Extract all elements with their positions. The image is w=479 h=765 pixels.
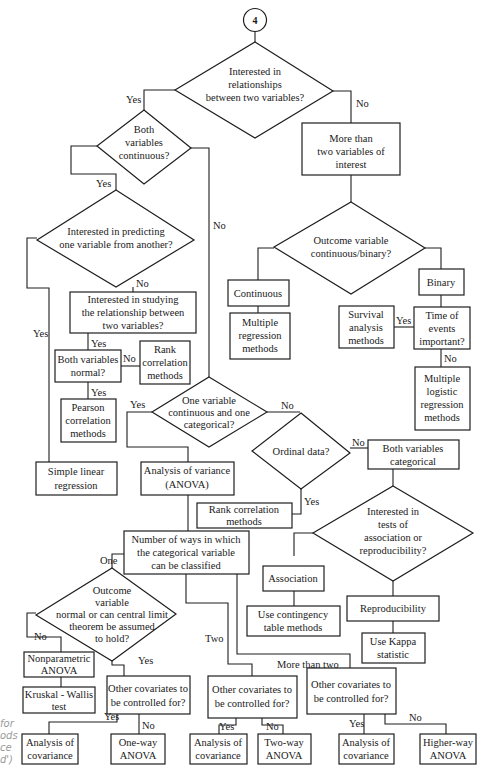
svg-text:to hold?: to hold?: [95, 633, 129, 644]
svg-text:two variables?: two variables?: [103, 320, 164, 331]
svg-text:correlation: correlation: [142, 357, 188, 368]
svg-text:Reproducibility: Reproducibility: [360, 603, 427, 614]
svg-text:correlation: correlation: [65, 415, 111, 426]
box-anova: Analysis of variance (ANOVA): [141, 462, 234, 495]
box-both-normal: Both variables normal?: [55, 350, 121, 382]
svg-text:Other covariates to: Other covariates to: [311, 679, 391, 690]
box-more-than-two: More than two variables of interest: [302, 123, 400, 175]
svg-text:Analysis of variance: Analysis of variance: [144, 465, 231, 476]
svg-text:(ANOVA): (ANOVA): [165, 479, 209, 491]
svg-text:Outcome variable: Outcome variable: [314, 235, 389, 246]
svg-text:Yes: Yes: [396, 315, 411, 326]
svg-text:Both variables: Both variables: [383, 443, 444, 454]
svg-text:Yes: Yes: [104, 711, 119, 722]
decision-outcome-normal: Outcome variable normal or can central l…: [36, 568, 176, 661]
svg-text:Yes: Yes: [304, 496, 319, 507]
box-covariates-2: Other covariates to be controlled for?: [208, 676, 297, 718]
svg-text:methods: methods: [226, 516, 262, 527]
svg-text:Yes: Yes: [349, 718, 364, 729]
svg-text:ods: ods: [0, 730, 18, 741]
svg-text:ANOVA: ANOVA: [266, 750, 303, 761]
box-binary: Binary: [419, 269, 464, 295]
decision-outcome-cont-binary: Outcome variable continuous/binary?: [274, 202, 425, 294]
svg-text:Nonparametric: Nonparametric: [28, 653, 91, 664]
svg-text:continuous/binary?: continuous/binary?: [311, 248, 392, 259]
svg-text:continuous?: continuous?: [119, 150, 170, 161]
svg-text:regression: regression: [420, 399, 464, 410]
svg-text:test: test: [52, 701, 67, 712]
box-rank-correlation-2: Rank correlation methods: [197, 503, 292, 528]
svg-text:Use contingency: Use contingency: [258, 609, 329, 620]
svg-text:methods: methods: [70, 428, 106, 439]
svg-text:Survival: Survival: [348, 309, 384, 320]
svg-text:Both: Both: [134, 124, 155, 135]
svg-text:Yes: Yes: [33, 328, 48, 339]
svg-text:Association: Association: [268, 573, 318, 584]
box-reproducibility: Reproducibility: [347, 596, 439, 621]
svg-text:variable: variable: [95, 597, 129, 608]
decision-ordinal: Ordinal data?: [252, 413, 350, 489]
box-association: Association: [263, 566, 324, 591]
svg-text:Outcome: Outcome: [93, 585, 132, 596]
svg-text:Yes: Yes: [219, 721, 234, 732]
svg-text:Other covariates to: Other covariates to: [212, 684, 292, 695]
svg-text:Number of ways in which: Number of ways in which: [131, 534, 241, 545]
svg-text:Binary: Binary: [427, 277, 456, 288]
svg-text:No: No: [266, 721, 279, 732]
svg-text:be controlled for?: be controlled for?: [314, 693, 389, 704]
svg-text:methods: methods: [348, 335, 384, 346]
box-kappa: Use Kappa statistic: [362, 633, 425, 663]
box-multiple-logistic: Multiple logistic regression methods: [415, 367, 470, 430]
svg-text:continuous and one: continuous and one: [168, 407, 250, 418]
box-survival-analysis: Survival analysis methods: [339, 306, 394, 348]
svg-text:Ordinal data?: Ordinal data?: [273, 446, 330, 457]
svg-text:Yes: Yes: [138, 655, 153, 666]
svg-text:categorical?: categorical?: [184, 419, 235, 430]
svg-text:Multiple: Multiple: [242, 317, 279, 328]
box-covariates-3: Other covariates to be controlled for?: [307, 668, 396, 714]
svg-text:the categorical variable: the categorical variable: [137, 547, 235, 558]
svg-text:association or: association or: [364, 532, 423, 543]
svg-text:Analysis of: Analysis of: [194, 737, 243, 748]
svg-text:analysis: analysis: [349, 322, 383, 333]
svg-text:Multiple: Multiple: [424, 373, 461, 384]
svg-text:One: One: [100, 555, 118, 566]
svg-text:logistic: logistic: [427, 386, 458, 397]
svg-text:methods: methods: [424, 412, 460, 423]
svg-text:ANOVA: ANOVA: [120, 750, 157, 761]
svg-text:No: No: [409, 712, 422, 723]
box-ancova-1: Analysis of covariance: [22, 734, 78, 764]
svg-text:categorical: categorical: [390, 456, 436, 467]
svg-text:No: No: [356, 98, 369, 109]
svg-text:Two-way: Two-way: [264, 737, 304, 748]
box-rank-correlation-1: Rank correlation methods: [140, 341, 190, 384]
svg-text:statistic: statistic: [377, 649, 409, 660]
svg-text:one variable from another?: one variable from another?: [59, 239, 173, 250]
decision-assoc-repro: Interested in tests of association or re…: [313, 486, 473, 581]
svg-text:for: for: [0, 718, 15, 729]
svg-text:No: No: [142, 720, 155, 731]
svg-text:Yes: Yes: [91, 387, 106, 398]
svg-text:two variables of: two variables of: [317, 146, 385, 157]
svg-text:methods: methods: [147, 370, 183, 381]
flowchart: 4 Interested in relationships between tw…: [0, 0, 479, 765]
decision-both-continuous: Both variables continuous?: [97, 110, 191, 184]
svg-text:d'): d'): [0, 754, 13, 765]
box-covariates-1: Other covariates to be controlled for?: [107, 676, 190, 714]
svg-text:Yes: Yes: [96, 178, 111, 189]
svg-text:the relationship between: the relationship between: [82, 307, 185, 318]
svg-text:tests of: tests of: [378, 519, 409, 530]
connector-circle: 4: [244, 9, 267, 32]
svg-text:No: No: [281, 400, 294, 411]
box-higherway-anova: Higher-way ANOVA: [420, 734, 476, 764]
svg-text:regression: regression: [54, 480, 98, 491]
svg-text:Analysis of: Analysis of: [26, 737, 75, 748]
svg-text:No: No: [136, 278, 149, 289]
box-multiple-regression: Multiple regression methods: [230, 313, 290, 359]
box-continuous: Continuous: [228, 280, 289, 306]
svg-text:variables: variables: [125, 137, 163, 148]
box-twoway-anova: Two-way ANOVA: [258, 734, 311, 764]
svg-text:normal or can central limit: normal or can central limit: [56, 609, 168, 620]
box-pearson: Pearson correlation methods: [61, 399, 116, 442]
svg-text:Interested in: Interested in: [229, 66, 282, 77]
